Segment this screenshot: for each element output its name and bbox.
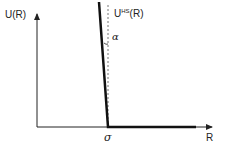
x-axis-label: R — [206, 132, 213, 143]
angle-label: α — [112, 31, 119, 42]
angle-arc — [104, 43, 108, 44]
potential-diagram: U(R) UHS(R) α σ R — [0, 0, 230, 146]
potential-curve — [99, 2, 196, 127]
x-tick-label-sigma: σ — [104, 131, 112, 144]
y-axis-label: U(R) — [5, 9, 26, 20]
curve-label: UHS(R) — [114, 8, 143, 19]
